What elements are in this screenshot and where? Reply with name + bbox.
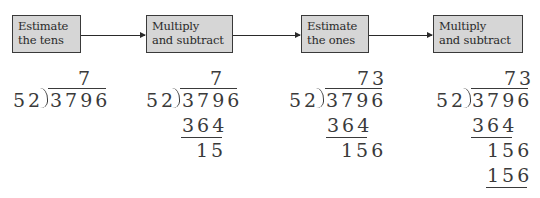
division-bracket xyxy=(40,88,48,108)
divisor: 52 xyxy=(436,90,466,110)
remainder-line: 15 xyxy=(196,140,226,160)
product-line: 364 xyxy=(472,115,517,135)
subtraction-bar xyxy=(486,187,527,188)
dividend: 3796 xyxy=(326,90,386,110)
remainder-line: 156 xyxy=(341,140,386,160)
step-box-estimate-tens: Estimate the tens xyxy=(12,15,81,53)
product-line: 364 xyxy=(327,115,372,135)
quotient: 73 xyxy=(357,68,387,88)
division-bracket xyxy=(316,88,324,108)
step-box-multiply-subtract-1: Multiply and subtract xyxy=(146,15,233,53)
step-label: Estimate xyxy=(307,19,363,33)
step-label: and subtract xyxy=(439,33,517,47)
divisor: 52 xyxy=(13,90,43,110)
step-label: Multiply xyxy=(439,19,517,33)
arrow-2 xyxy=(233,35,300,36)
division-bracket xyxy=(463,88,471,108)
quotient: 7 xyxy=(78,68,93,88)
step-box-multiply-subtract-2: Multiply and subtract xyxy=(433,15,523,53)
step-box-estimate-ones: Estimate the ones xyxy=(301,15,369,53)
remainder-line: 156 xyxy=(487,140,532,160)
quotient: 7 xyxy=(210,68,225,88)
step-label: and subtract xyxy=(152,33,227,47)
step-label: the ones xyxy=(307,33,363,47)
arrow-3 xyxy=(369,35,432,36)
step-label: Estimate xyxy=(18,19,75,33)
step-label: the tens xyxy=(18,33,75,47)
dividend: 3796 xyxy=(50,90,110,110)
division-bracket xyxy=(172,88,180,108)
dividend: 3796 xyxy=(182,90,242,110)
step-label: Multiply xyxy=(152,19,227,33)
product-line: 156 xyxy=(487,165,532,185)
divisor: 52 xyxy=(289,90,319,110)
arrow-1 xyxy=(81,35,145,36)
quotient: 73 xyxy=(504,68,534,88)
product-line: 364 xyxy=(182,115,227,135)
dividend: 3796 xyxy=(472,90,532,110)
